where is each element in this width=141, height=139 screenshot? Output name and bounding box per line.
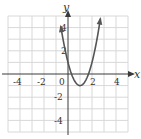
y-axis-label: y — [62, 1, 70, 14]
x-tick-0: 0 — [59, 77, 65, 87]
curve-right-arrow-icon — [97, 17, 103, 25]
x-tick-neg2: -2 — [37, 77, 46, 87]
parabola-graph: x y -4 -2 0 2 4 4 2 -2 -4 — [0, 0, 141, 139]
x-tick-2: 2 — [90, 77, 96, 87]
x-tick-neg4: -4 — [13, 77, 22, 87]
x-tick-4: 4 — [114, 77, 120, 87]
y-tick-neg2: -2 — [54, 92, 63, 102]
x-axis-label: x — [134, 68, 141, 81]
y-tick-neg4: -4 — [54, 116, 63, 126]
